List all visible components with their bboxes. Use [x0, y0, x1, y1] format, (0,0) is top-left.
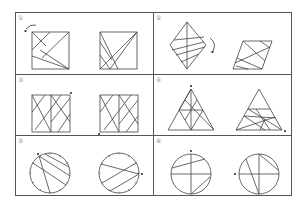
panel-1-figure-a: [24, 25, 69, 69]
marker-dot: [190, 150, 192, 152]
panel-3-label: ③: [18, 76, 23, 83]
panel-1-label: ①: [18, 14, 23, 21]
puzzle-grid: ① ② ③ ④ ⑤ ⑥: [0, 0, 301, 215]
marker-dot: [234, 173, 236, 175]
segment: [236, 66, 248, 69]
panel-6: [171, 150, 279, 194]
panel-4-figure-a: [168, 85, 214, 130]
rotate-arrow-icon: [210, 38, 214, 51]
segment: [110, 32, 137, 69]
segment: [32, 32, 46, 46]
segment: [32, 56, 69, 69]
segment: [32, 95, 45, 112]
chord: [172, 159, 205, 168]
chord: [33, 163, 66, 185]
panel-5: [30, 153, 144, 194]
panel-2-label: ②: [156, 14, 161, 21]
chord: [39, 156, 50, 193]
segment: [58, 114, 70, 132]
panel-6-label: ⑥: [156, 137, 161, 144]
marker-dot: [37, 153, 39, 155]
circle: [30, 153, 70, 193]
panel-5-figure-b: [99, 153, 144, 194]
marker-dot: [211, 51, 213, 53]
marker-dot: [190, 85, 192, 87]
panel-6-figure-a: [171, 150, 211, 194]
panel-5-label: ⑤: [18, 137, 23, 144]
chord: [246, 159, 259, 194]
panel-4-label: ④: [156, 76, 161, 83]
marker-dot: [70, 92, 72, 94]
segment: [100, 32, 118, 69]
segment: [104, 95, 131, 130]
marker-dot: [284, 130, 286, 132]
panel-4-figure-b: [236, 89, 286, 132]
segment: [260, 41, 270, 48]
segment: [126, 116, 138, 132]
panel-6-figure-b: [234, 154, 279, 194]
panel-3: [32, 92, 138, 135]
segment: [100, 55, 110, 69]
segment: [32, 95, 51, 132]
segment: [179, 89, 191, 110]
panel-1: [24, 25, 137, 69]
chord: [110, 174, 139, 191]
rotate-arrow-icon: [26, 25, 36, 29]
panel-3-figure-b: [98, 95, 138, 135]
panel-2-figure-b: [233, 41, 272, 69]
segment: [181, 54, 199, 62]
marker-dot: [24, 30, 26, 32]
panel-3-figure-a: [32, 92, 72, 132]
marker-dot: [141, 173, 143, 175]
segment: [100, 95, 113, 112]
marker-dot: [98, 133, 100, 135]
triangle: [236, 89, 282, 130]
panel-2-figure-a: [170, 22, 214, 69]
segment: [35, 95, 61, 130]
segment: [100, 95, 119, 132]
segment: [174, 37, 204, 40]
rhombus: [170, 22, 206, 69]
segment: [40, 50, 69, 69]
segment: [191, 110, 203, 130]
panel-5-figure-a: [30, 153, 71, 194]
panel-4: [168, 85, 286, 132]
panel-1-figure-b: [100, 32, 137, 69]
panel-2: [170, 22, 272, 69]
